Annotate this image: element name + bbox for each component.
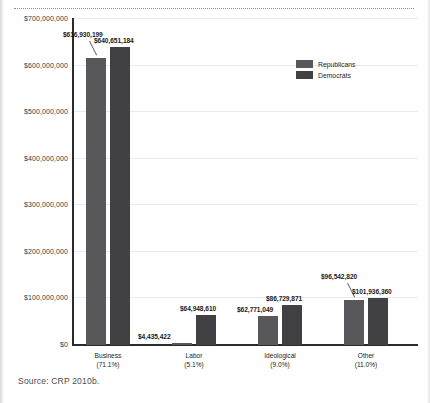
y-axis-tick-label: $200,000,000 <box>24 247 68 254</box>
figure-container: $700,000,000$600,000,000$500,000,000$400… <box>0 0 430 403</box>
x-axis-category-label: Labor(5.1%) <box>154 352 234 370</box>
bar-other-republicans[interactable] <box>344 300 364 345</box>
category-name: Business <box>68 352 148 361</box>
y-axis-tick-label: $600,000,000 <box>24 61 68 68</box>
y-axis-tick-label: $300,000,000 <box>24 201 68 208</box>
legend-item-republicans: Republicans <box>296 60 406 68</box>
x-axis-category-label: Other(11.0%) <box>326 352 406 370</box>
category-share: (5.1%) <box>154 361 234 370</box>
legend-swatch-democrats <box>296 71 313 79</box>
bar-value-label: $86,729,871 <box>266 295 302 302</box>
dotted-rule <box>14 8 414 9</box>
y-axis-tick-label: $0 <box>60 341 68 348</box>
y-axis-tick-label: $500,000,000 <box>24 108 68 115</box>
category-share: (9.0%) <box>240 361 320 370</box>
bar-value-label: $101,936,360 <box>352 288 392 295</box>
bar-value-label: $640,651,184 <box>94 37 134 44</box>
bar-group <box>172 18 216 345</box>
bar-ideological-democrats[interactable] <box>282 305 302 345</box>
legend-label-republicans: Republicans <box>318 61 355 68</box>
chart-legend: Republicans Democrats <box>296 60 406 82</box>
bar-labor-democrats[interactable] <box>196 315 216 345</box>
x-axis-category-label: Business(71.1%) <box>68 352 148 370</box>
category-name: Ideological <box>240 352 320 361</box>
bar-other-democrats[interactable] <box>368 298 388 345</box>
legend-item-democrats: Democrats <box>296 71 406 79</box>
legend-label-democrats: Democrats <box>318 72 351 79</box>
bar-value-label: $96,542,820 <box>321 273 357 280</box>
bar-business-republicans[interactable] <box>86 58 106 345</box>
bar-value-label: $62,771,049 <box>237 306 273 313</box>
bar-business-democrats[interactable] <box>110 47 130 345</box>
bar-value-label: $64,948,610 <box>180 305 216 312</box>
chart-plot-area: $700,000,000$600,000,000$500,000,000$400… <box>0 18 430 350</box>
category-share: (71.1%) <box>68 361 148 370</box>
category-name: Labor <box>154 352 234 361</box>
bar-ideological-republicans[interactable] <box>258 316 278 345</box>
y-axis-tick-label: $700,000,000 <box>24 15 68 22</box>
y-axis-tick-label: $400,000,000 <box>24 154 68 161</box>
category-share: (11.0%) <box>326 361 406 370</box>
bar-value-label: $4,435,422 <box>138 333 171 340</box>
category-name: Other <box>326 352 406 361</box>
source-note: Source: CRP 2010b. <box>18 376 99 386</box>
bar-group <box>86 18 130 345</box>
x-axis-category-label: Ideological(9.0%) <box>240 352 320 370</box>
y-axis-tick-label: $100,000,000 <box>24 294 68 301</box>
legend-swatch-republicans <box>296 60 313 68</box>
bar-labor-republicans[interactable] <box>172 343 192 345</box>
